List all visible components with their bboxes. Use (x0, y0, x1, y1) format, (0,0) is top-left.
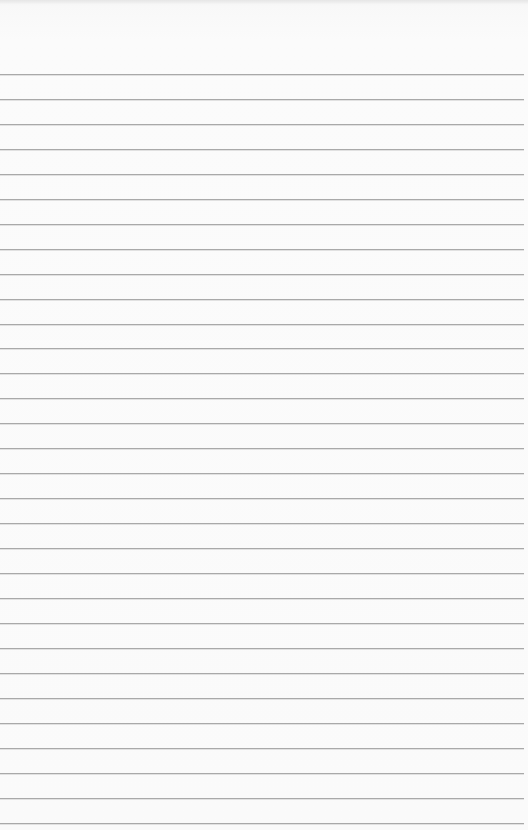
ruled-line (0, 773, 524, 774)
ruled-line (0, 398, 524, 399)
ruled-line (0, 523, 524, 524)
ruled-line (0, 798, 524, 799)
ruled-line (0, 698, 524, 699)
ruled-line (0, 723, 524, 724)
ruled-line (0, 274, 524, 275)
ruled-line (0, 473, 524, 474)
ruled-line (0, 648, 524, 649)
ruled-line (0, 548, 524, 549)
ruled-line (0, 99, 524, 100)
ruled-line (0, 199, 524, 200)
ruled-line (0, 623, 524, 624)
ruled-line (0, 348, 524, 349)
ruled-line (0, 174, 524, 175)
ruled-line (0, 299, 524, 300)
ruled-line (0, 149, 524, 150)
ruled-line (0, 573, 524, 574)
page-top-edge (0, 0, 528, 4)
lined-paper-page (0, 0, 528, 830)
ruled-line (0, 748, 524, 749)
ruled-line (0, 224, 524, 225)
ruled-line (0, 598, 524, 599)
ruled-line (0, 124, 524, 125)
ruled-line (0, 249, 524, 250)
ruled-line (0, 423, 524, 424)
ruled-line (0, 373, 524, 374)
ruled-line (0, 74, 524, 75)
ruled-line (0, 673, 524, 674)
ruled-line (0, 448, 524, 449)
ruled-line (0, 498, 524, 499)
ruled-line (0, 324, 524, 325)
ruled-line (0, 823, 524, 824)
